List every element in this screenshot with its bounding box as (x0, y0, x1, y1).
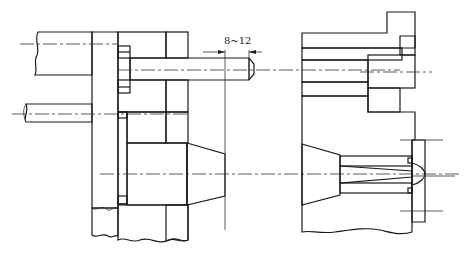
sprue-bore-upper (302, 60, 368, 82)
ejector-pin (130, 58, 254, 80)
sprue-cone (302, 144, 340, 205)
return-rod (24, 104, 92, 122)
sprue-flange-lower (302, 82, 368, 96)
sprue-plate-lower (92, 205, 188, 242)
mold-plate (302, 96, 415, 234)
sprue-channel (340, 166, 412, 183)
sprue-bushing-cavity (118, 112, 225, 205)
sprue-flange-upper (302, 48, 402, 60)
top-left-plate (35, 32, 92, 75)
dimension-label: 8~12 (224, 35, 251, 46)
ejector-plate-column (92, 32, 118, 210)
nozzle-seat (412, 140, 425, 222)
drawing-canvas: 8~12 (0, 0, 466, 262)
sprue-plate-upper (118, 32, 188, 112)
ejector-pin-head (118, 46, 130, 93)
left-view: 8~12 (12, 32, 460, 242)
top-clamp-plate (302, 12, 415, 48)
dimension-8-12: 8~12 (203, 35, 262, 230)
right-view (302, 12, 455, 234)
